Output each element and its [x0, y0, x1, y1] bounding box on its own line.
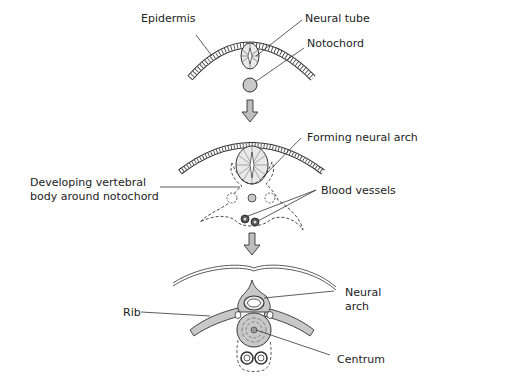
- arrow-down-icon: [244, 233, 260, 255]
- skin-surface: [173, 265, 336, 287]
- notochord-shape: [243, 78, 257, 92]
- label-notochord: Notochord: [307, 37, 364, 50]
- centrum-shape: [237, 313, 271, 347]
- diagram-canvas: Epidermis Neural tube Notochord: [0, 0, 520, 388]
- label-developing-body-1: Developing vertebral: [30, 176, 146, 189]
- label-rib: Rib: [123, 306, 141, 319]
- neural-tube-shape-2: [236, 146, 268, 184]
- label-neural-tube: Neural tube: [305, 12, 370, 25]
- label-epidermis: Epidermis: [141, 12, 196, 25]
- label-centrum: Centrum: [337, 353, 385, 366]
- blood-vessels-shape: [241, 215, 259, 226]
- label-neural-arch-2: arch: [345, 300, 369, 313]
- label-developing-body-2: body around notochord: [30, 190, 159, 203]
- label-forming-neural-arch: Forming neural arch: [307, 131, 418, 144]
- vessels-shape: [241, 352, 267, 364]
- label-neural-arch-1: Neural: [345, 286, 381, 299]
- stage-3: Rib Neural arch Centrum: [123, 265, 385, 371]
- stage-1: Epidermis Neural tube Notochord: [141, 12, 370, 92]
- stage-2: Forming neural arch Developing vertebral…: [30, 131, 418, 230]
- label-blood-vessels: Blood vessels: [321, 184, 396, 197]
- notochord-shape-2: [248, 194, 256, 202]
- rib-left-shape: [190, 308, 240, 336]
- arrow-down-icon: [242, 100, 258, 122]
